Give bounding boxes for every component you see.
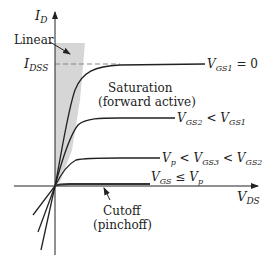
y-axis-label: ID: [34, 8, 47, 25]
curve-vgs3-label: Vp < VGS3 < VGS2: [162, 151, 262, 167]
x-axis-label: VDS: [237, 189, 260, 206]
cutoff-pointer-arrow: [104, 188, 110, 200]
idss-label: IDSS: [23, 56, 49, 73]
cutoff-label-1: Cutoff: [103, 204, 142, 218]
linear-region-label: Linear: [14, 33, 54, 47]
jfet-characteristics-diagram: ID Linear IDSS Saturation (forward activ…: [0, 0, 271, 266]
curve-vgs2-label: VGS2 < VGS1: [177, 111, 246, 127]
cutoff-label-2: (pinchoff): [93, 218, 152, 232]
saturation-label-1: Saturation: [108, 81, 173, 95]
curve-vgs1-label: VGS1 = 0: [207, 57, 258, 73]
saturation-label-2: (forward active): [98, 95, 196, 109]
cutoff-curve-label: VGS ≤ Vp: [151, 170, 203, 186]
